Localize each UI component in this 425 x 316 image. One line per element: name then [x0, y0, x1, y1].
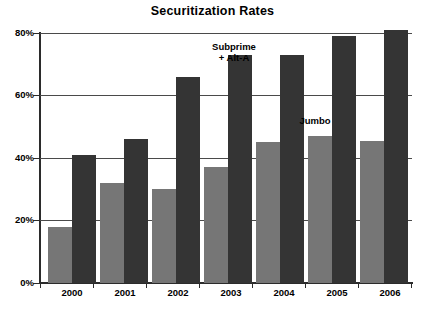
chart-container: Securitization Rates 80% 60% 40% 20% 0% — [0, 0, 425, 316]
x-axis-tick-label-2003: 2003 — [201, 288, 261, 298]
bar-jumbo-2005 — [308, 136, 332, 283]
y-axis-tick-label-80: 80% — [0, 28, 34, 38]
bar-group-2004 — [256, 33, 304, 283]
bar-subprime-2002 — [176, 77, 200, 283]
bar-group-2000 — [48, 33, 96, 283]
bar-jumbo-2002 — [152, 189, 176, 283]
x-axis-tick-label-2005: 2005 — [307, 288, 367, 298]
chart-title: Securitization Rates — [0, 4, 425, 18]
bar-subprime-2001 — [124, 139, 148, 283]
bar-jumbo-2000 — [48, 227, 72, 283]
bar-subprime-2003 — [228, 55, 252, 283]
annotation-subprime-alt-a: Subprime + Alt-A — [196, 41, 272, 63]
annotation-jumbo: Jumbo — [288, 115, 342, 126]
bar-subprime-2004 — [280, 55, 304, 283]
bar-group-2002 — [152, 33, 200, 283]
bar-jumbo-2004 — [256, 142, 280, 283]
bar-subprime-2006 — [384, 30, 408, 283]
bar-subprime-2000 — [72, 155, 96, 283]
bar-jumbo-2001 — [100, 183, 124, 283]
y-axis-tick-label-0: 0% — [0, 278, 34, 288]
y-axis-tick-label-20: 20% — [0, 215, 34, 225]
x-axis-tick-label-2004: 2004 — [254, 288, 314, 298]
bar-subprime-2005 — [332, 36, 356, 283]
x-axis-tick-mark-0 — [40, 283, 41, 288]
bar-jumbo-2003 — [204, 167, 228, 283]
y-axis-tick-label-40: 40% — [0, 153, 34, 163]
y-axis-tick-label-60: 60% — [0, 90, 34, 100]
bar-group-2006 — [360, 33, 408, 283]
bar-group-2005 — [308, 33, 356, 283]
x-axis-tick-label-2001: 2001 — [95, 288, 155, 298]
x-axis-tick-label-2000: 2000 — [42, 288, 102, 298]
plot-area — [40, 33, 412, 283]
bar-group-2001 — [100, 33, 148, 283]
x-axis-tick-label-2002: 2002 — [148, 288, 208, 298]
bar-jumbo-2006 — [360, 141, 384, 283]
bar-group-2003 — [204, 33, 252, 283]
x-axis-tick-label-2006: 2006 — [360, 288, 420, 298]
